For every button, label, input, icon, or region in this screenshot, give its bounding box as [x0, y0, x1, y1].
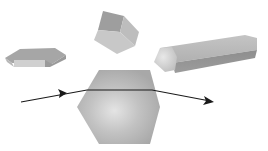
hexagonal-plate — [5, 48, 66, 67]
short-prism — [94, 11, 139, 54]
ray-arrow-in-icon — [58, 89, 67, 98]
ice-crystal-diagram — [0, 0, 268, 151]
diagram-canvas — [0, 0, 268, 151]
hexagonal-column — [154, 35, 257, 73]
hexagon-cross-section — [77, 70, 160, 144]
